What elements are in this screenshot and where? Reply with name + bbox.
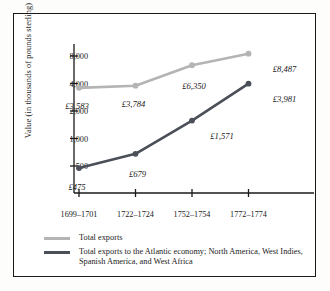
series-line bbox=[79, 84, 249, 168]
data-point bbox=[76, 85, 82, 91]
chart-figure: Value (in thousands of pounds sterling) … bbox=[0, 0, 330, 291]
series-lines bbox=[79, 54, 249, 168]
data-point bbox=[246, 51, 252, 57]
data-point-label: £6,350 bbox=[182, 81, 206, 91]
data-point-label: £3,583 bbox=[65, 101, 89, 111]
data-point-label: £3,981 bbox=[273, 94, 297, 104]
chart-frame: Value (in thousands of pounds sterling) … bbox=[13, 13, 316, 277]
data-point bbox=[76, 165, 82, 171]
legend-color-swatch bbox=[44, 251, 70, 254]
series-line bbox=[79, 54, 249, 88]
data-point bbox=[189, 118, 195, 124]
data-point bbox=[246, 81, 252, 87]
legend-label: Total exports to the Atlantic economy; N… bbox=[79, 247, 311, 268]
series-points bbox=[76, 51, 251, 171]
data-point-label: £3,784 bbox=[122, 99, 146, 109]
legend-item: Total exports bbox=[44, 233, 319, 244]
chart-legend: Total exportsTotal exports to the Atlant… bbox=[44, 233, 319, 271]
data-point bbox=[189, 62, 195, 68]
legend-color-swatch bbox=[44, 237, 70, 240]
data-point-label: £1,571 bbox=[210, 131, 234, 141]
data-point-label: £475 bbox=[68, 182, 85, 192]
data-point-label: £679 bbox=[129, 169, 146, 179]
data-point bbox=[133, 151, 139, 157]
data-point bbox=[133, 83, 139, 89]
data-point-label: £8,487 bbox=[273, 64, 297, 74]
legend-item: Total exports to the Atlantic economy; N… bbox=[44, 247, 319, 268]
legend-label: Total exports bbox=[79, 233, 122, 244]
